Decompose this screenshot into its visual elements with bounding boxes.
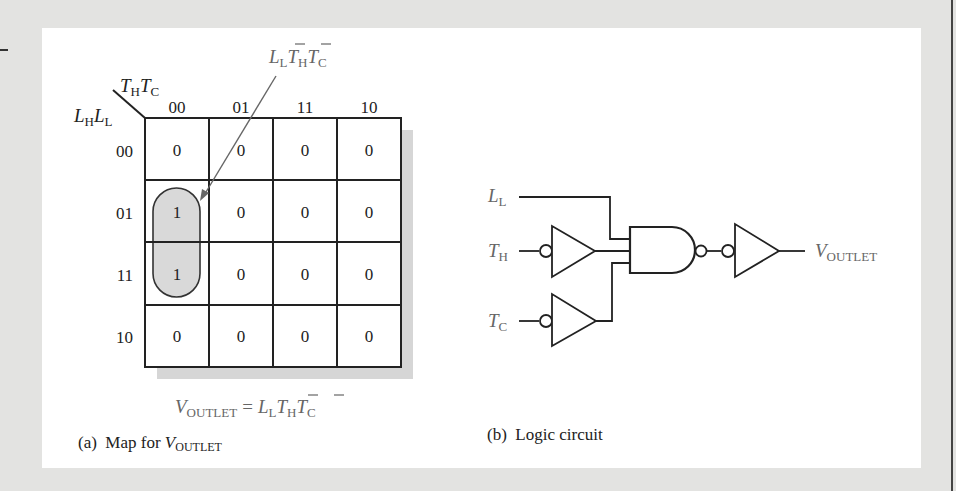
kmap-column-variables: THTC — [120, 75, 159, 99]
caption-a: (a) Map for VOUTLET — [78, 433, 222, 455]
svg-text:VOUTLET=LLTHTC: VOUTLET=LLTHTC — [175, 396, 316, 420]
kmap-cell: 0 — [301, 265, 310, 284]
inversion-bubble — [540, 245, 552, 257]
inversion-bubble — [696, 246, 707, 257]
wire-TC-out — [596, 263, 630, 321]
caption-a-sub: OUTLET — [175, 440, 222, 454]
logic-circuit — [519, 197, 805, 346]
kmap-cell: 0 — [365, 203, 374, 222]
caption-a-var: V — [165, 433, 175, 452]
kmap-cell: 0 — [173, 327, 182, 346]
kmap-cell: 1 — [173, 265, 182, 284]
kmap-row-header: 00 — [116, 142, 133, 161]
input-label-LL: LL — [487, 185, 507, 209]
kmap-col-header: 10 — [361, 98, 378, 117]
kmap-cell: 1 — [173, 203, 182, 222]
kmap-cell: 0 — [365, 327, 374, 346]
group-term-label: LLTHTC — [268, 44, 331, 70]
kmap-cell: 0 — [301, 141, 310, 160]
caption-a-text: (a) Map for — [78, 433, 165, 452]
kmap-row-variables: LHLL — [73, 105, 113, 129]
kmap-col-header: 00 — [169, 98, 186, 117]
caption-b: (b) Logic circuit — [487, 425, 603, 445]
kmap-cell: 0 — [237, 203, 246, 222]
kmap-cell: 0 — [301, 327, 310, 346]
buffer-gate-TC — [552, 294, 596, 346]
kmap-cell: 0 — [173, 141, 182, 160]
caption-b-text: (b) Logic circuit — [487, 425, 603, 444]
kmap-row-header: 01 — [116, 204, 133, 223]
kmap-cell: 0 — [237, 327, 246, 346]
nand-gate — [630, 227, 695, 273]
output-label: VOUTLET — [815, 240, 877, 264]
kmap-cell: 0 — [301, 203, 310, 222]
input-label-TC: TC — [488, 310, 507, 334]
inversion-bubble — [540, 315, 552, 327]
kmap-col-header: 01 — [233, 98, 250, 117]
kmap-cell: 0 — [365, 141, 374, 160]
kmap-equation: VOUTLET=LLTHTC — [175, 395, 344, 420]
figure-canvas: THTC LHLL 00 01 11 10 00 01 11 10 0 0 0 … — [0, 0, 956, 491]
kmap-row-header: 11 — [117, 266, 133, 285]
inversion-bubble — [722, 245, 734, 257]
input-label-TH: TH — [488, 240, 508, 264]
kmap-col-header: 11 — [297, 98, 313, 117]
kmap-cell: 0 — [237, 141, 246, 160]
wire-LL — [519, 197, 630, 239]
buffer-gate-TH — [552, 226, 595, 277]
kmap-cell: 0 — [237, 265, 246, 284]
buffer-gate-output — [735, 224, 779, 277]
svg-text:LLTHTC: LLTHTC — [268, 46, 327, 70]
kmap-cell: 0 — [365, 265, 374, 284]
kmap-row-header: 10 — [116, 328, 133, 347]
